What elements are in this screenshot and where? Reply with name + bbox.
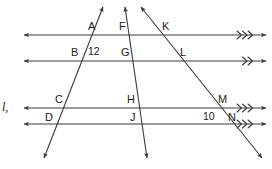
point-label-g: G xyxy=(121,47,130,58)
point-label-d: D xyxy=(45,112,53,123)
point-label-a: A xyxy=(88,21,95,32)
point-label-k: K xyxy=(162,21,169,32)
point-label-l: L xyxy=(180,47,186,58)
transversal-3 xyxy=(141,7,262,158)
segment-measure-12: 12 xyxy=(88,46,100,57)
segment-measure-10: 10 xyxy=(203,111,215,122)
figure-canvas xyxy=(0,0,272,169)
transversal-2 xyxy=(125,7,147,158)
geometry-figure: l, A F K B G L C H M D J N 12 10 xyxy=(0,0,272,169)
point-label-f: F xyxy=(119,21,126,32)
point-label-n: N xyxy=(228,112,236,123)
parallel-tick-marks-group xyxy=(237,31,253,128)
point-label-c: C xyxy=(55,94,63,105)
point-label-h: H xyxy=(127,94,135,105)
transversals-group xyxy=(44,7,262,158)
point-label-m: M xyxy=(218,94,227,105)
point-label-b: B xyxy=(71,47,78,58)
point-label-j: J xyxy=(130,112,136,123)
line-name-label: l, xyxy=(2,101,8,113)
